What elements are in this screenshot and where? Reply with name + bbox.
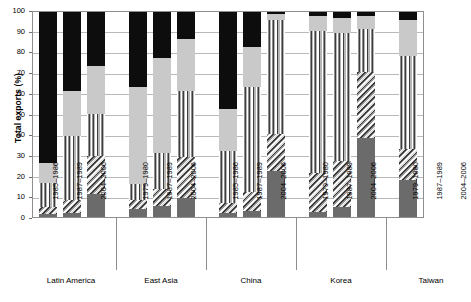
y-tick-mark [29, 11, 32, 12]
y-tick-label: 70 [2, 69, 25, 77]
y-tick-label: 0 [2, 214, 25, 222]
bar-segment-segment-4 [423, 20, 424, 37]
y-tick-label: 60 [2, 90, 25, 98]
plot-area [32, 11, 424, 218]
group-separator [296, 218, 297, 270]
bar-segment-segment-2 [357, 72, 375, 138]
bar-segment-segment-3 [87, 114, 105, 156]
bar-segment-segment-4 [177, 39, 195, 91]
bar-segment-segment-5 [129, 11, 147, 87]
x-tick-label: 1987–1989 [255, 162, 264, 222]
y-tick-mark [29, 115, 32, 116]
y-tick-mark [29, 218, 32, 219]
x-tick-label: 2004–2006 [189, 162, 198, 222]
y-tick-mark [29, 135, 32, 136]
y-tick-mark [29, 197, 32, 198]
bar-segment-segment-4 [399, 20, 417, 55]
y-tick-label: 30 [2, 152, 25, 160]
group-separator [386, 218, 387, 270]
bar-segment-segment-4 [87, 66, 105, 114]
x-tick-label: 1979–1980 [321, 162, 330, 222]
bar-segment-segment-4 [243, 47, 261, 86]
y-tick-mark [29, 156, 32, 157]
bar-segment-segment-5 [63, 11, 81, 91]
group-label-korea: Korea [301, 276, 381, 285]
bar-segment-segment-3 [309, 31, 327, 173]
bar-segment-segment-1 [423, 167, 424, 217]
group-label-taiwan: Taiwan [391, 276, 471, 285]
bar-segment-segment-5 [243, 11, 261, 47]
x-tick-label: 2004–2006 [459, 162, 468, 222]
bar-segment-segment-5 [399, 11, 417, 20]
x-tick-label: 1987–1989 [75, 162, 84, 222]
y-tick-mark [29, 94, 32, 95]
bar-segment-segment-5 [357, 11, 375, 16]
bar-segment-segment-4 [153, 58, 171, 153]
bar-segment-segment-4 [63, 91, 81, 137]
group-separator [116, 218, 117, 270]
bar-segment-segment-5 [39, 11, 57, 163]
x-tick-label: 1987–1989 [435, 162, 444, 222]
x-tick-label: 1979–1980 [411, 162, 420, 222]
bar-segment-segment-3 [267, 20, 285, 134]
y-tick-mark [29, 177, 32, 178]
bar-segment-segment-3 [333, 33, 351, 161]
x-tick-label: 1979–1980 [141, 162, 150, 222]
x-tick-label: 1985–1986 [51, 162, 60, 222]
bar-segment-segment-5 [177, 11, 195, 39]
bar-segment-segment-2 [423, 128, 424, 167]
group-label-latin-america: Latin America [31, 276, 111, 285]
y-tick-label: 10 [2, 193, 25, 201]
y-tick-label: 90 [2, 28, 25, 36]
y-tick-mark [29, 32, 32, 33]
bar-segment-segment-4 [219, 109, 237, 150]
bar-segment-segment-4 [357, 16, 375, 28]
bar-segment-segment-5 [333, 11, 351, 18]
x-tick-label: 2004–2006 [99, 162, 108, 222]
bar-segment-segment-5 [153, 11, 171, 58]
bar-segment-segment-3 [177, 91, 195, 157]
y-tick-label: 100 [2, 7, 25, 15]
group-separator [206, 218, 207, 270]
bar-segment-segment-3 [357, 29, 375, 72]
bar-segment-segment-4 [333, 18, 351, 32]
y-tick-mark [29, 73, 32, 74]
bar-segment-segment-3 [423, 37, 424, 128]
group-label-east-asia: East Asia [121, 276, 201, 285]
x-tick-label: 2004–2006 [369, 162, 378, 222]
y-tick-label: 50 [2, 111, 25, 119]
x-tick-label: 1987–1989 [165, 162, 174, 222]
y-tick-label: 40 [2, 131, 25, 139]
bar-segment-segment-5 [219, 11, 237, 109]
group-label-china: China [211, 276, 291, 285]
x-tick-label: 1985–1986 [231, 162, 240, 222]
bar-segment-segment-3 [399, 56, 417, 149]
x-tick-label: 2004–2006 [279, 162, 288, 222]
bar-segment-segment-5 [87, 11, 105, 66]
bar-segment-segment-5 [267, 11, 285, 14]
bar-taiwan-1[interactable] [423, 11, 424, 217]
bar-segment-segment-5 [309, 11, 327, 16]
bar-segment-segment-5 [423, 11, 424, 20]
y-tick-label: 20 [2, 173, 25, 181]
bar-segment-segment-4 [267, 14, 285, 20]
y-tick-mark [29, 52, 32, 53]
y-tick-label: 80 [2, 48, 25, 56]
x-tick-label: 1987–1989 [345, 162, 354, 222]
bar-segment-segment-4 [309, 16, 327, 30]
